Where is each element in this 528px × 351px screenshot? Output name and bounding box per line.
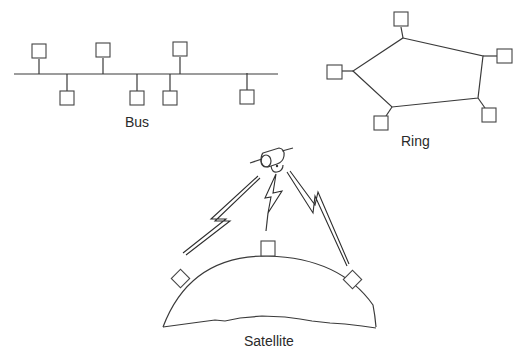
bus-node xyxy=(163,74,177,105)
satellite-icon xyxy=(250,148,293,172)
ring-node xyxy=(327,65,353,79)
right-signal-bolt xyxy=(287,171,349,266)
ring-topology: Ring xyxy=(327,12,512,149)
ring-label: Ring xyxy=(401,133,430,149)
left-signal-bolt xyxy=(183,176,260,255)
ring-node xyxy=(483,49,512,63)
bus-node xyxy=(173,42,187,74)
ring-loop xyxy=(353,38,483,107)
bus-node xyxy=(32,44,46,74)
bus-topology: Bus xyxy=(14,42,278,130)
ring-node xyxy=(374,107,392,130)
network-topologies-diagram: Bus Ring xyxy=(0,0,528,351)
ring-node xyxy=(478,98,496,122)
bus-label: Bus xyxy=(125,114,149,130)
right-station xyxy=(343,270,361,288)
satellite-label: Satellite xyxy=(244,333,294,349)
bus-node xyxy=(96,43,110,74)
middle-signal-bolt xyxy=(265,174,282,213)
bus-node xyxy=(60,74,74,105)
satellite-topology: Satellite xyxy=(163,148,376,349)
left-station xyxy=(171,269,189,287)
bus-node xyxy=(240,73,254,104)
earth-ground-line xyxy=(163,316,376,328)
top-station xyxy=(261,241,275,256)
ring-node xyxy=(394,12,408,38)
bus-node xyxy=(130,74,144,105)
